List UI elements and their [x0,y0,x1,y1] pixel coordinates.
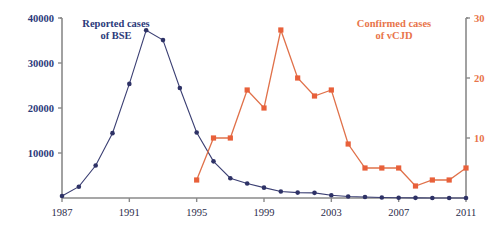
left-axis-tick-label: 10000 [28,148,54,159]
data-point-bse [178,86,183,91]
data-point-bse [279,189,284,194]
data-point-vcjd [463,165,468,170]
data-point-bse [329,193,334,198]
data-point-vcjd [211,135,216,140]
data-point-bse [413,196,418,201]
legend-vcjd-line2: of vCJD [375,30,412,41]
legend-bse-line1: Reported cases [82,18,149,29]
left-axis-tick-label: 30000 [28,58,54,69]
x-axis-tick-label: 1995 [186,207,207,218]
chart-container: 1000020000300004000010203019871991199519… [0,0,498,235]
legend-bse-line2: of BSE [100,30,131,41]
data-point-vcjd [278,27,283,32]
data-point-bse [312,191,317,196]
series-group [60,27,469,200]
series-line-vcjd [197,30,466,186]
data-point-bse [110,131,115,136]
data-point-vcjd [329,87,334,92]
data-point-bse [228,176,233,181]
data-point-vcjd [362,165,367,170]
data-point-vcjd [396,165,401,170]
data-point-vcjd [413,183,418,188]
chart-svg: 1000020000300004000010203019871991199519… [0,0,498,235]
series-line-bse [62,30,466,198]
data-point-vcjd [312,93,317,98]
data-point-vcjd [194,177,199,182]
data-point-bse [346,194,351,199]
right-axis-tick-label: 20 [474,73,485,84]
x-axis-tick-label: 1999 [254,207,275,218]
data-point-bse [245,181,250,186]
x-axis-tick-label: 2011 [456,207,477,218]
data-point-vcjd [228,135,233,140]
data-point-bse [363,195,368,200]
x-axis-tick-label: 1987 [52,207,73,218]
data-point-vcjd [447,177,452,182]
legend-group: Reported cases of BSE Confirmed cases of… [82,18,431,41]
right-axis-tick-label: 10 [474,133,485,144]
data-point-bse [464,196,469,201]
data-point-bse [380,195,385,200]
data-point-bse [60,194,65,199]
right-axis-tick-label: 30 [474,13,485,24]
x-axis-tick-label: 2007 [388,207,409,218]
data-point-vcjd [430,177,435,182]
data-point-bse [93,163,98,168]
data-point-bse [262,185,267,190]
data-point-bse [430,196,435,201]
data-point-bse [447,196,452,201]
x-axis-tick-label: 1991 [119,207,140,218]
data-point-vcjd [261,105,266,110]
data-point-vcjd [379,165,384,170]
data-point-bse [161,38,166,43]
left-axis-tick-label: 40000 [28,13,54,24]
data-point-bse [77,184,82,189]
data-point-bse [396,195,401,200]
x-axis-tick-label: 2003 [321,207,342,218]
data-point-bse [194,130,199,135]
data-point-vcjd [295,75,300,80]
data-point-bse [295,190,300,195]
data-point-bse [127,82,132,87]
data-point-vcjd [346,141,351,146]
right-axis-spine [466,18,468,198]
data-point-vcjd [245,87,250,92]
left-axis-tick-label: 20000 [28,103,54,114]
data-point-bse [211,159,216,164]
legend-vcjd-line1: Confirmed cases [357,18,431,29]
